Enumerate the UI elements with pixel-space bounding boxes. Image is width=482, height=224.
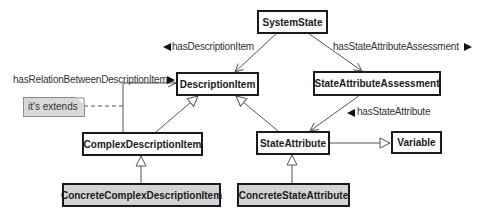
class-state-attribute[interactable]: StateAttribute [256,131,330,155]
association-label-has-description-item: hasDescriptionItem [172,41,254,52]
association-line-has-relation-between-description-item [123,83,176,132]
class-concrete-state-attribute[interactable]: ConcreteStateAttribute [237,183,350,207]
direction-left-icon [347,109,355,117]
class-variable[interactable]: Variable [391,131,442,154]
generalization-line-complex-to-description [156,96,198,132]
class-complex-description-item[interactable]: ComplexDescriptionItem [82,132,203,156]
association-label-has-state-attribute: hasStateAttribute [357,106,430,117]
note-its-extends: it's extends [23,97,85,117]
direction-left-icon [163,43,171,51]
generalization-line-state-attribute-to-description [236,96,278,131]
association-label-has-relation-between-description-item: hasRelationBetweenDescriptionItem [13,74,168,85]
class-system-state[interactable]: SystemState [257,10,328,34]
class-description-item[interactable]: DescriptionItem [176,72,259,96]
association-line-has-description-item [235,33,277,72]
direction-right-icon [464,43,472,51]
class-concrete-complex-description-item[interactable]: ConcreteComplexDescriptionItem [62,183,221,207]
class-state-attribute-assessment[interactable]: StateAttributeAssessment [313,71,441,96]
association-label-has-state-attribute-assessment: hasStateAttributeAssessment [333,41,459,52]
association-line-has-state-attribute-assessment [308,33,362,71]
